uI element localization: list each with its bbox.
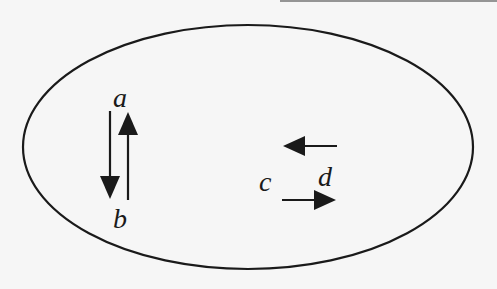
arrow-right-icon xyxy=(282,190,336,210)
diagram-canvas xyxy=(0,0,497,289)
label-c: c xyxy=(259,168,271,196)
label-a: a xyxy=(113,84,127,112)
ellipse-boundary xyxy=(23,25,473,269)
arrow-left-icon xyxy=(283,136,337,156)
label-d: d xyxy=(318,163,332,191)
label-b: b xyxy=(113,205,127,233)
arrow-down-icon xyxy=(100,111,120,199)
arrow-up-icon xyxy=(118,112,138,200)
